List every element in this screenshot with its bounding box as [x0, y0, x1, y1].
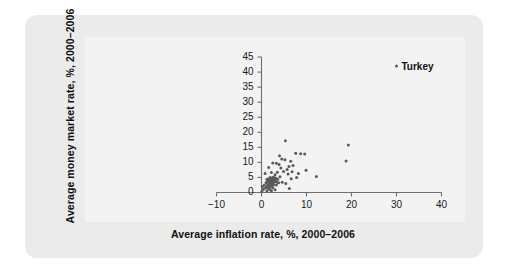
x-tick-label: 10	[287, 199, 327, 210]
data-point-group	[260, 65, 398, 194]
data-point	[294, 152, 297, 155]
y-tick-label: 40	[228, 66, 254, 77]
data-point	[261, 185, 264, 188]
data-point	[278, 154, 281, 157]
data-point	[277, 181, 280, 184]
data-point	[267, 166, 270, 169]
data-point	[275, 162, 278, 165]
data-point	[279, 167, 282, 170]
data-point	[270, 189, 273, 192]
y-tick-label: 25	[228, 111, 254, 122]
data-point	[282, 170, 285, 173]
data-point	[265, 189, 268, 192]
y-tick-label: 30	[228, 96, 254, 107]
y-tick-label: 15	[228, 141, 254, 152]
data-point	[270, 171, 273, 174]
data-point	[303, 152, 306, 155]
screenshot-root: Average money market rate, %, 2000–2006 …	[0, 0, 508, 274]
data-point	[260, 190, 263, 193]
data-point	[274, 173, 277, 176]
y-tick-label: 45	[228, 51, 254, 62]
data-point	[278, 175, 281, 178]
scatter-plot-area: 051015202530354045 −10010203040 Turkey	[85, 37, 465, 222]
data-point	[305, 169, 308, 172]
data-point	[315, 175, 318, 178]
data-point	[274, 188, 277, 191]
data-point	[288, 187, 291, 190]
data-point	[395, 65, 398, 68]
x-tick-label: 40	[422, 199, 462, 210]
data-point	[281, 181, 284, 184]
data-point	[278, 163, 281, 166]
y-tick-label: 0	[228, 186, 254, 197]
y-tick-label: 5	[228, 171, 254, 182]
data-point	[290, 177, 293, 180]
data-point	[284, 139, 287, 142]
x-tick-label: −10	[197, 199, 237, 210]
y-tick-label: 20	[228, 126, 254, 137]
data-point	[271, 186, 274, 189]
data-point	[276, 171, 279, 174]
data-point	[291, 170, 294, 173]
data-point	[297, 172, 300, 175]
annotation-label-turkey: Turkey	[402, 61, 434, 72]
data-point	[275, 183, 278, 186]
data-point	[292, 164, 295, 167]
y-tick-label: 10	[228, 156, 254, 167]
data-point	[271, 161, 274, 164]
x-tick-label: 0	[242, 199, 282, 210]
x-axis-title: Average inflation rate, %, 2000–2006	[113, 228, 413, 240]
figure-card: Average money market rate, %, 2000–2006 …	[25, 15, 483, 258]
x-tick-label: 20	[332, 199, 372, 210]
data-point	[264, 172, 267, 175]
data-point	[347, 143, 350, 146]
data-point	[295, 176, 298, 179]
y-tick-label: 35	[228, 81, 254, 92]
data-point	[287, 165, 290, 168]
data-point	[284, 182, 287, 185]
data-point	[280, 158, 283, 161]
data-point	[283, 158, 286, 161]
data-point	[287, 173, 290, 176]
y-axis-title: Average money market rate, %, 2000–2006	[64, 6, 76, 226]
x-tick-label: 30	[377, 199, 417, 210]
data-point	[299, 152, 302, 155]
data-point	[286, 168, 289, 171]
data-point	[345, 159, 348, 162]
data-point	[289, 160, 292, 163]
